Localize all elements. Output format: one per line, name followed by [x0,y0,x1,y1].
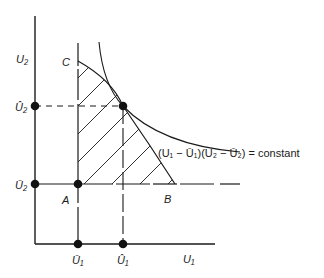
y-axis-label: U₂ [16,53,29,65]
nash-solution-point [119,102,128,111]
u2-bar-label: Ū₂ [15,179,28,191]
nash-product-curve [99,42,240,152]
point-u2-bar [31,180,40,189]
feasible-region-hatching [60,56,296,192]
utility-frontier-curve [78,61,175,184]
u1-bar-label: Ū₁ [72,254,84,266]
point-b-label: B [164,193,171,205]
u1-hat-label: Û₁ [117,254,129,266]
u2-hat-label: Û₂ [15,101,28,113]
curve-equation-label: (U₁ − Ū₁)(U₂ − Ū₂) = constant [158,147,300,159]
point-u2-hat [31,102,40,111]
point-u1-bar [74,240,83,249]
point-a-label: A [61,194,69,206]
point-a [74,180,83,189]
point-c-label: C [62,56,70,68]
bargaining-diagram: U₂ U₁ Û₂ Ū₂ Ū₁ Û₁ C A B (U₁ − Ū₁)(U₂ − Ū… [0,0,324,278]
x-axis-label: U₁ [183,253,195,265]
point-u1-hat [119,240,128,249]
